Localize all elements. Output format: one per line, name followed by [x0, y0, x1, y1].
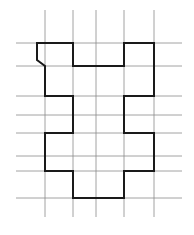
grid-diagram	[0, 0, 194, 235]
grid-lines	[16, 10, 182, 217]
